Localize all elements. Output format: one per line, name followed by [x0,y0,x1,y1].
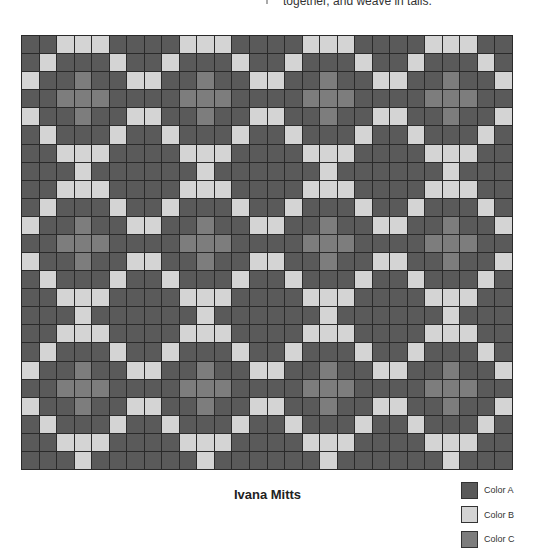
chart-cell [162,108,179,125]
chart-cell [75,380,92,397]
chart-cell [92,217,109,234]
chart-cell [22,72,39,89]
chart-cell [215,199,232,216]
chart-cell [495,90,512,107]
chart-cell [145,217,162,234]
chart-cell [373,235,390,252]
chart-cell [373,271,390,288]
chart-cell [355,253,372,270]
legend-item-color-a: Color A [461,478,515,503]
chart-cell [408,163,425,180]
chart-cell [250,235,267,252]
chart-cell [408,199,425,216]
chart-cell [390,108,407,125]
chart-cell [22,271,39,288]
chart-cell [320,452,337,469]
chart-cell [197,253,214,270]
chart-cell [215,416,232,433]
chart-cell [180,54,197,71]
chart-cell [162,452,179,469]
chart-cell [127,362,144,379]
chart-cell [57,108,74,125]
chart-cell [460,343,477,360]
chart-cell [110,72,127,89]
chart-cell [373,253,390,270]
chart-cell [162,271,179,288]
chart-cell [250,416,267,433]
chart-cell [75,307,92,324]
chart-cell [338,362,355,379]
chart-cell [250,90,267,107]
chart-cell [443,145,460,162]
chart-cell [338,416,355,433]
chart-cell [197,163,214,180]
chart-cell [408,54,425,71]
chart-cell [460,416,477,433]
chart-cell [495,145,512,162]
chart-cell [92,362,109,379]
chart-cell [75,126,92,143]
chart-cell [162,90,179,107]
chart-cell [75,181,92,198]
chart-cell [268,145,285,162]
chart-cell [390,163,407,180]
chart-cell [373,145,390,162]
chart-cell [127,36,144,53]
chart-cell [40,362,57,379]
chart-cell [390,398,407,415]
chart-cell [180,145,197,162]
chart-cell [75,145,92,162]
chart-cell [268,72,285,89]
chart-cell [250,434,267,451]
chart-cell [373,126,390,143]
chart-cell [162,253,179,270]
chart-cell [92,416,109,433]
chart-cell [408,108,425,125]
chart-cell [250,163,267,180]
chart-cell [408,181,425,198]
chart-cell [408,235,425,252]
chart-cell [110,362,127,379]
chart-cell [320,36,337,53]
chart-cell [373,289,390,306]
chart-cell [232,271,249,288]
chart-cell [303,90,320,107]
chart-cell [22,235,39,252]
chart-cell [320,416,337,433]
chart-cell [425,54,442,71]
chart-cell [215,289,232,306]
chart-cell [75,163,92,180]
chart-cell [443,217,460,234]
chart-cell [338,163,355,180]
chart-cell [390,416,407,433]
colorwork-chart [21,35,513,470]
chart-cell [180,434,197,451]
chart-cell [197,271,214,288]
chart-cell [268,126,285,143]
chart-cell [478,271,495,288]
chart-cell [460,90,477,107]
chart-cell [127,235,144,252]
chart-cell [303,145,320,162]
chart-cell [373,434,390,451]
chart-cell [162,380,179,397]
chart-cell [338,253,355,270]
chart-cell [57,181,74,198]
chart-cell [215,36,232,53]
chart-cell [250,380,267,397]
chart-cell [390,434,407,451]
chart-cell [127,181,144,198]
chart-cell [338,343,355,360]
chart-cell [110,163,127,180]
chart-cell [92,452,109,469]
chart-cell [110,235,127,252]
chart-cell [110,199,127,216]
chart-cell [127,398,144,415]
chart-cell [390,235,407,252]
chart-cell [408,343,425,360]
chart-cell [355,199,372,216]
chart-cell [92,398,109,415]
chart-cell [495,54,512,71]
chart-cell [92,343,109,360]
chart-cell [40,416,57,433]
